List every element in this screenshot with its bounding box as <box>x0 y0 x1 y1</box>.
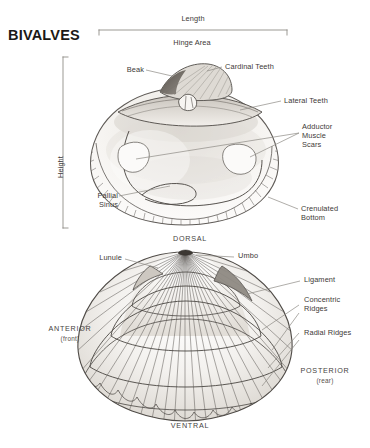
label-cardinal-teeth: Cardinal Teeth <box>225 62 315 71</box>
label-posterior: POSTERIOR <box>288 366 362 375</box>
label-radial-ridges: Radial Ridges <box>304 328 370 337</box>
label-hinge-area: Hinge Area <box>142 38 242 47</box>
diagram-canvas: BIVALVES <box>0 0 370 448</box>
label-lateral-teeth: Lateral Teeth <box>284 96 368 105</box>
label-anterior-sub: (front) <box>34 334 106 343</box>
label-dorsal: DORSAL <box>155 234 225 243</box>
label-posterior-sub: (rear) <box>288 376 362 385</box>
label-anterior: ANTERIOR <box>34 324 106 333</box>
label-crenulated-bottom: Crenulated Bottom <box>301 204 369 222</box>
label-ligament: Ligament <box>304 275 368 284</box>
label-pallial-sinus: Pallial Sinus <box>58 191 118 209</box>
label-lunule: Lunule <box>62 253 122 262</box>
label-beak: Beak <box>98 65 144 74</box>
label-concentric-ridges: Concentric Ridges <box>304 295 370 313</box>
label-umbo: Umbo <box>238 251 288 260</box>
label-ventral: VENTRAL <box>155 421 225 430</box>
length-label: Length <box>145 14 241 23</box>
height-label: Height <box>56 156 65 178</box>
label-adductor-muscle-scars: Adductor Muscle Scars <box>302 122 368 150</box>
exterior-valve-figure <box>76 250 300 428</box>
length-bracket <box>99 30 287 35</box>
umbo-tip <box>178 250 193 255</box>
